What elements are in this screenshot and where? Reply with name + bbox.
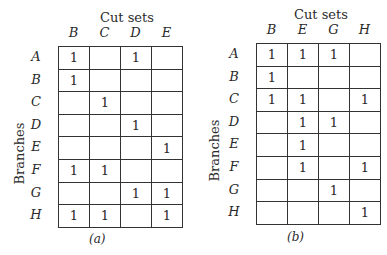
figure-a-caption: (a) xyxy=(89,232,106,246)
matrix-row: 11 xyxy=(59,182,183,205)
row-header: D xyxy=(28,117,44,132)
matrix-row: 11 xyxy=(257,156,381,179)
matrix-cell xyxy=(152,159,183,182)
row-header: G xyxy=(226,182,242,197)
matrix-cell xyxy=(152,47,183,70)
matrix-cell xyxy=(152,92,183,115)
matrix-cell xyxy=(257,156,288,179)
matrix-cell xyxy=(59,114,90,137)
matrix-cell xyxy=(121,92,152,115)
row-header: D xyxy=(226,114,242,129)
matrix-cell xyxy=(90,69,121,92)
row-header: G xyxy=(28,185,44,200)
matrix-cell: 1 xyxy=(257,44,288,67)
matrix-cell: 1 xyxy=(121,114,152,137)
matrix-cell xyxy=(257,202,288,225)
matrix-cell xyxy=(350,44,381,67)
matrix-cell: 1 xyxy=(288,156,319,179)
column-header: E xyxy=(287,22,318,37)
matrix-row: 1 xyxy=(59,69,183,92)
matrix-row: 111 xyxy=(257,89,381,112)
matrix-cell: 1 xyxy=(319,111,350,134)
matrix-cell xyxy=(288,179,319,202)
matrix-cell: 1 xyxy=(59,47,90,70)
matrix-row: 11 xyxy=(59,159,183,182)
figure-a-matrix: 1111111111111 xyxy=(58,46,183,228)
row-header: H xyxy=(226,204,242,219)
matrix-cell: 1 xyxy=(350,156,381,179)
matrix-cell: 1 xyxy=(121,182,152,205)
column-header: B xyxy=(58,25,89,40)
matrix-cell xyxy=(121,159,152,182)
row-header: B xyxy=(226,69,242,84)
matrix-cell xyxy=(288,202,319,225)
row-header: A xyxy=(28,49,44,64)
matrix-row: 111 xyxy=(59,205,183,228)
matrix-cell: 1 xyxy=(350,89,381,112)
column-header: C xyxy=(89,25,120,40)
matrix-cell: 1 xyxy=(59,159,90,182)
matrix-row: 111 xyxy=(257,44,381,67)
matrix-cell: 1 xyxy=(319,179,350,202)
matrix-cell: 1 xyxy=(90,205,121,228)
figure-a-title: Cut sets xyxy=(100,10,154,25)
matrix-cell xyxy=(319,66,350,89)
matrix-cell xyxy=(90,114,121,137)
matrix-row: 11 xyxy=(59,47,183,70)
matrix-cell xyxy=(350,134,381,157)
matrix-cell xyxy=(257,111,288,134)
matrix-cell: 1 xyxy=(59,69,90,92)
matrix-cell xyxy=(319,156,350,179)
matrix-cell: 1 xyxy=(152,182,183,205)
figure-b: Cut sets Branches BEGH ABCDEFGH 11111111… xyxy=(195,0,387,255)
matrix-cell: 1 xyxy=(319,44,350,67)
matrix-cell xyxy=(319,89,350,112)
matrix-cell: 1 xyxy=(121,47,152,70)
matrix-row: 1 xyxy=(257,134,381,157)
matrix-cell xyxy=(350,66,381,89)
figure-b-row-axis-label: Branches xyxy=(207,116,222,186)
row-header: C xyxy=(226,91,242,106)
matrix-row: 11 xyxy=(257,111,381,134)
matrix-cell: 1 xyxy=(288,111,319,134)
column-header: D xyxy=(120,25,151,40)
row-header: B xyxy=(28,72,44,87)
matrix-cell xyxy=(121,69,152,92)
matrix-cell: 1 xyxy=(59,205,90,228)
row-header: C xyxy=(28,94,44,109)
figure-a: Cut sets Branches BCDE ABCDEFGH 11111111… xyxy=(0,0,195,255)
matrix-cell xyxy=(90,137,121,160)
figure-b-title: Cut sets xyxy=(294,7,348,22)
matrix-cell xyxy=(59,182,90,205)
figure-a-row-axis-label: Branches xyxy=(12,119,27,189)
matrix-cell: 1 xyxy=(288,89,319,112)
matrix-row: 1 xyxy=(257,202,381,225)
matrix-cell: 1 xyxy=(257,89,288,112)
matrix-cell xyxy=(121,205,152,228)
column-header: G xyxy=(318,22,349,37)
matrix-cell xyxy=(257,179,288,202)
row-header: A xyxy=(226,46,242,61)
matrix-row: 1 xyxy=(59,92,183,115)
row-header: E xyxy=(28,139,44,154)
matrix-cell xyxy=(90,47,121,70)
matrix-cell: 1 xyxy=(288,134,319,157)
matrix-row: 1 xyxy=(59,137,183,160)
figure-b-caption: (b) xyxy=(287,230,304,244)
column-header: E xyxy=(151,25,182,40)
matrix-cell xyxy=(319,202,350,225)
row-header: E xyxy=(226,136,242,151)
row-header: F xyxy=(226,159,242,174)
matrix-row: 1 xyxy=(257,179,381,202)
matrix-cell xyxy=(350,111,381,134)
matrix-cell: 1 xyxy=(90,92,121,115)
matrix-cell: 1 xyxy=(257,66,288,89)
matrix-cell xyxy=(152,69,183,92)
matrix-row: 1 xyxy=(59,114,183,137)
matrix-cell xyxy=(121,137,152,160)
matrix-row: 1 xyxy=(257,66,381,89)
matrix-cell: 1 xyxy=(90,159,121,182)
matrix-cell xyxy=(90,182,121,205)
matrix-cell: 1 xyxy=(152,205,183,228)
matrix-cell xyxy=(350,179,381,202)
